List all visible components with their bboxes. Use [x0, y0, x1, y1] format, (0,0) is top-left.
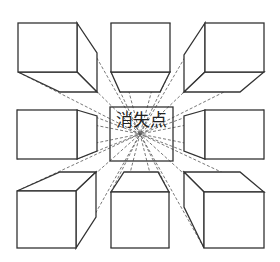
one-point-perspective-diagram [0, 0, 280, 262]
cube-middle-left [17, 110, 97, 159]
cube-top-right [184, 23, 264, 92]
cube-middle-right [184, 110, 264, 159]
cube-bottom-right [184, 172, 264, 248]
vanishing-point-label: 消失点 [110, 109, 173, 131]
cube-bottom-left [17, 172, 96, 248]
cube-top-middle [111, 23, 170, 92]
cube-top-left [18, 23, 97, 92]
cube-bottom-middle [111, 172, 169, 248]
